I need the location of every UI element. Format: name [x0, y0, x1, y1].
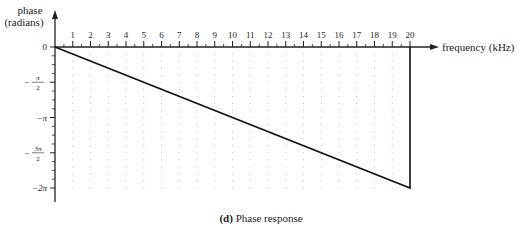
grid-dot — [232, 124, 233, 125]
grid-dot — [179, 117, 180, 118]
grid-dot — [303, 53, 304, 54]
grid-dot — [214, 68, 215, 69]
grid-dot — [267, 145, 268, 146]
grid-dot — [321, 187, 322, 188]
grid-dot — [214, 82, 215, 83]
grid-dot — [143, 152, 144, 153]
grid-dot — [214, 152, 215, 153]
grid-dot — [161, 159, 162, 160]
grid-dot — [303, 96, 304, 97]
grid-dot — [321, 124, 322, 125]
grid-dot — [250, 110, 251, 111]
grid-dot — [285, 89, 286, 90]
grid-dot — [161, 166, 162, 167]
grid-dot — [392, 131, 393, 132]
grid-dot — [338, 110, 339, 111]
grid-dot — [161, 173, 162, 174]
grid-dot — [90, 166, 91, 167]
x-tick-label: 11 — [246, 30, 255, 40]
grid-dot — [143, 89, 144, 90]
grid-dot — [90, 82, 91, 83]
y-tick-label: 0 — [43, 42, 48, 52]
grid-dot — [90, 75, 91, 76]
grid-dot — [179, 173, 180, 174]
grid-dot — [374, 166, 375, 167]
grid-dot — [161, 110, 162, 111]
grid-dot — [250, 145, 251, 146]
grid-dot — [356, 103, 357, 104]
grid-dot — [250, 131, 251, 132]
grid-dot — [161, 138, 162, 139]
grid-dot — [161, 96, 162, 97]
grid-dot — [392, 75, 393, 76]
x-tick-label: 17 — [352, 30, 362, 40]
figure-caption: (d) Phase response — [0, 212, 522, 224]
grid-dot — [374, 131, 375, 132]
grid-dot — [285, 152, 286, 153]
grid-dot — [338, 82, 339, 83]
grid-dot — [196, 96, 197, 97]
grid-dot — [196, 187, 197, 188]
grid-dot — [161, 131, 162, 132]
grid-dot — [303, 159, 304, 160]
grid-dot — [250, 180, 251, 181]
grid-dot — [321, 82, 322, 83]
grid-dot — [338, 166, 339, 167]
grid-dot — [392, 110, 393, 111]
grid-dot — [179, 89, 180, 90]
x-tick-label: 2 — [88, 30, 93, 40]
grid-dot — [374, 68, 375, 69]
grid-dot — [392, 187, 393, 188]
grid-dot — [161, 152, 162, 153]
y-tick-sign: − — [24, 148, 29, 158]
grid-dot — [196, 75, 197, 76]
x-tick-label: 4 — [124, 30, 129, 40]
grid-dot — [90, 145, 91, 146]
grid-dot — [214, 61, 215, 62]
grid-dot — [285, 110, 286, 111]
grid-dot — [267, 68, 268, 69]
x-axis-arrow-icon — [430, 44, 439, 50]
grid-dot — [214, 173, 215, 174]
grid-dot — [232, 96, 233, 97]
grid-dot — [356, 145, 357, 146]
grid-dot — [267, 82, 268, 83]
grid-dot — [303, 138, 304, 139]
x-tick-label: 16 — [335, 30, 345, 40]
x-tick-label: 18 — [370, 30, 380, 40]
grid-dot — [161, 145, 162, 146]
grid-dot — [143, 124, 144, 125]
grid-dot — [356, 138, 357, 139]
grid-dot — [108, 180, 109, 181]
grid-dot — [143, 173, 144, 174]
grid-dot — [338, 124, 339, 125]
grid-dot — [179, 145, 180, 146]
grid-dot — [125, 124, 126, 125]
grid-dot — [321, 180, 322, 181]
grid-dot — [392, 138, 393, 139]
grid-dot — [356, 117, 357, 118]
y-axis-label: phase — [17, 4, 42, 16]
grid-dot — [267, 89, 268, 90]
grid-dot — [214, 138, 215, 139]
grid-dot — [90, 53, 91, 54]
grid-dot — [285, 68, 286, 69]
grid-dot — [125, 187, 126, 188]
grid-dot — [232, 61, 233, 62]
grid-dot — [196, 82, 197, 83]
x-tick-label: 13 — [281, 30, 291, 40]
grid-dot — [90, 117, 91, 118]
grid-dot — [303, 180, 304, 181]
grid-dot — [90, 159, 91, 160]
grid-dot — [125, 82, 126, 83]
grid-dot — [267, 117, 268, 118]
grid-dot — [143, 110, 144, 111]
grid-dot — [303, 131, 304, 132]
grid-dot — [374, 180, 375, 181]
grid-dot — [392, 159, 393, 160]
grid-dot — [232, 82, 233, 83]
grid-dot — [179, 152, 180, 153]
grid-dot — [374, 187, 375, 188]
grid-dot — [285, 173, 286, 174]
grid-dot — [267, 124, 268, 125]
